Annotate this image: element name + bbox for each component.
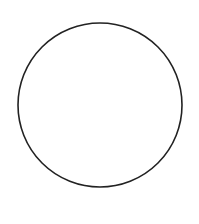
diagram-canvas [0,0,199,224]
diagram-svg [0,0,199,224]
circle-outline [18,23,182,187]
